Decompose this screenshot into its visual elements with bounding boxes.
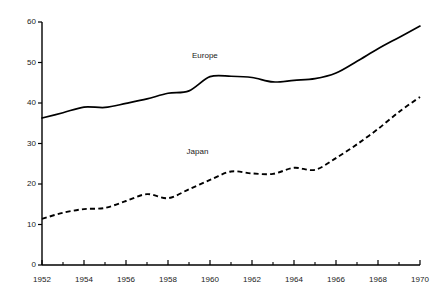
y-axis-tick-label: 30: [10, 140, 36, 148]
chart-canvas: [0, 0, 436, 304]
x-axis-tick-label: 1956: [106, 276, 146, 284]
line-chart: 0102030405060 19521954195619581960196219…: [0, 0, 436, 304]
series-label-europe: Europe: [192, 52, 218, 60]
y-axis-tick-label: 50: [10, 59, 36, 67]
y-axis-tick-label: 60: [10, 18, 36, 26]
series-line-japan: [42, 97, 420, 219]
x-axis-tick-label: 1954: [64, 276, 104, 284]
x-axis-tick-label: 1964: [274, 276, 314, 284]
y-axis-tick-label: 0: [10, 261, 36, 269]
x-axis-tick-label: 1962: [232, 276, 272, 284]
series-line-europe: [42, 26, 420, 118]
x-axis-tick-label: 1958: [148, 276, 188, 284]
y-axis-tick-label: 40: [10, 99, 36, 107]
series-label-japan: Japan: [187, 148, 209, 156]
x-axis-tick-label: 1968: [358, 276, 398, 284]
x-axis-tick-label: 1960: [190, 276, 230, 284]
y-axis-tick-label: 20: [10, 180, 36, 188]
x-axis-tick-label: 1966: [316, 276, 356, 284]
y-axis-tick-label: 10: [10, 221, 36, 229]
x-axis-tick-label: 1970: [400, 276, 436, 284]
x-axis-tick-label: 1952: [22, 276, 62, 284]
